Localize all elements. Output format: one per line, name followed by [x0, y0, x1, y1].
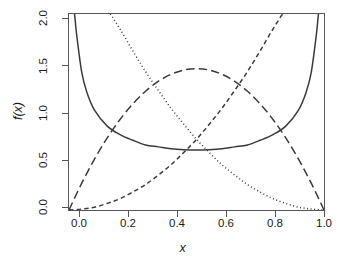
y-tick-label-1.5: 1.5 [36, 49, 50, 83]
x-tick-label-1.0: 1.0 [302, 216, 346, 230]
curves-layer [69, 14, 324, 210]
x-axis-title: x [0, 240, 349, 256]
x-tick-label-0.2: 0.2 [106, 216, 150, 230]
y-tick-label-2.0: 2.0 [36, 1, 50, 35]
y-tick-label-1.0: 1.0 [36, 96, 50, 130]
x-tick-label-0.6: 0.6 [204, 216, 248, 230]
series-line-beta-1-3 [69, 14, 324, 210]
series-line-beta-3-1 [69, 14, 324, 210]
series-line-beta-0.5-0.5 [70, 14, 322, 150]
x-tick-label-0.4: 0.4 [155, 216, 199, 230]
x-tick-label-0.8: 0.8 [253, 216, 297, 230]
y-tick-label-0.5: 0.5 [36, 143, 50, 177]
x-axis-title-text: x [163, 241, 185, 255]
x-tick-label-0.0: 0.0 [57, 216, 101, 230]
chart-figure: 2.0 1.5 1.0 0.5 0.0 f(x) 0.0 0.2 0.4 0.6… [0, 0, 349, 277]
y-axis-title: f(x) [10, 81, 26, 141]
y-tick-label-0.0: 0.0 [36, 190, 50, 224]
series-line-beta-2-2 [69, 69, 324, 210]
plot-panel [68, 13, 325, 211]
